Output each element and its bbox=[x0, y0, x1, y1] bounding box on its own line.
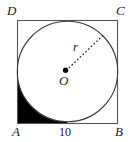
geometry-figure: D C A B O r 10 bbox=[0, 0, 132, 142]
center-label-o: O bbox=[59, 74, 68, 87]
vertex-label-d: D bbox=[7, 4, 16, 17]
figure-canvas bbox=[0, 0, 132, 142]
vertex-label-b: B bbox=[115, 125, 123, 138]
side-length-label: 10 bbox=[59, 126, 71, 139]
radius-label-r: r bbox=[73, 40, 78, 53]
vertex-label-a: A bbox=[12, 125, 20, 138]
radius-line bbox=[67, 35, 104, 70]
vertex-label-c: C bbox=[116, 4, 125, 17]
